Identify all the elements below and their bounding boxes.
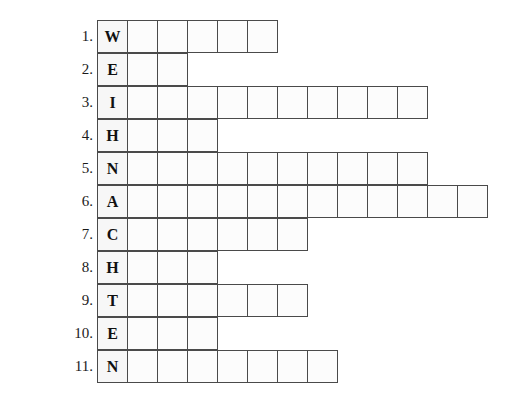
puzzle-answer-cell[interactable] <box>278 153 308 185</box>
puzzle-answer-cell[interactable] <box>308 186 338 218</box>
puzzle-answer-cell[interactable] <box>278 351 308 383</box>
puzzle-answer-cell[interactable] <box>368 87 398 119</box>
puzzle-answer-cell[interactable] <box>308 351 338 383</box>
row-number-label: 8. <box>60 251 97 284</box>
puzzle-answer-cell[interactable] <box>368 153 398 185</box>
puzzle-answer-cell[interactable] <box>248 285 278 317</box>
puzzle-answer-cell[interactable] <box>128 153 158 185</box>
puzzle-row: 7.C <box>60 218 488 251</box>
puzzle-answer-cell[interactable] <box>188 21 218 53</box>
puzzle-answer-cell[interactable] <box>158 120 188 152</box>
puzzle-answer-cell[interactable] <box>158 351 188 383</box>
puzzle-answer-cell[interactable] <box>278 285 308 317</box>
puzzle-answer-cell[interactable] <box>188 87 218 119</box>
puzzle-answer-cell[interactable] <box>188 285 218 317</box>
puzzle-answer-cell[interactable] <box>128 186 158 218</box>
puzzle-answer-cell[interactable] <box>338 186 368 218</box>
puzzle-answer-cell[interactable] <box>218 153 248 185</box>
puzzle-answer-cell[interactable] <box>158 153 188 185</box>
puzzle-answer-cell[interactable] <box>158 54 188 86</box>
puzzle-answer-cell[interactable] <box>158 87 188 119</box>
puzzle-cell-strip: E <box>97 317 218 350</box>
puzzle-answer-cell[interactable] <box>428 186 458 218</box>
puzzle-answer-cell[interactable] <box>188 351 218 383</box>
row-number-label: 4. <box>60 119 97 152</box>
row-number-label: 11. <box>60 350 97 383</box>
puzzle-answer-cell[interactable] <box>338 87 368 119</box>
puzzle-answer-cell[interactable] <box>188 153 218 185</box>
puzzle-answer-cell[interactable] <box>248 21 278 53</box>
puzzle-answer-cell[interactable] <box>218 87 248 119</box>
puzzle-answer-cell[interactable] <box>218 285 248 317</box>
puzzle-answer-cell[interactable] <box>368 186 398 218</box>
puzzle-answer-cell[interactable] <box>188 219 218 251</box>
puzzle-answer-cell[interactable] <box>128 21 158 53</box>
puzzle-row: 4.H <box>60 119 488 152</box>
puzzle-answer-cell[interactable] <box>158 186 188 218</box>
puzzle-letter-cell: E <box>98 54 128 86</box>
puzzle-letter-cell: E <box>98 318 128 350</box>
puzzle-row: 3.I <box>60 86 488 119</box>
puzzle-root: 1.W2.E3.I4.H5.N6.A7.C8.H9.T10.E11.N <box>0 0 521 396</box>
puzzle-answer-cell[interactable] <box>158 219 188 251</box>
puzzle-answer-cell[interactable] <box>308 87 338 119</box>
puzzle-letter-cell: H <box>98 120 128 152</box>
puzzle-answer-cell[interactable] <box>218 351 248 383</box>
puzzle-cell-strip: W <box>97 20 278 53</box>
puzzle-answer-cell[interactable] <box>128 219 158 251</box>
puzzle-answer-cell[interactable] <box>188 120 218 152</box>
row-number-label: 3. <box>60 86 97 119</box>
puzzle-letter-cell: H <box>98 252 128 284</box>
puzzle-answer-cell[interactable] <box>188 186 218 218</box>
row-number-label: 5. <box>60 152 97 185</box>
puzzle-answer-cell[interactable] <box>278 87 308 119</box>
puzzle-letter-cell: W <box>98 21 128 53</box>
puzzle-answer-cell[interactable] <box>128 285 158 317</box>
puzzle-answer-cell[interactable] <box>158 252 188 284</box>
puzzle-answer-cell[interactable] <box>248 219 278 251</box>
puzzle-answer-cell[interactable] <box>278 219 308 251</box>
puzzle-row: 11.N <box>60 350 488 383</box>
puzzle-answer-cell[interactable] <box>158 285 188 317</box>
puzzle-answer-cell[interactable] <box>308 153 338 185</box>
puzzle-letter-cell: T <box>98 285 128 317</box>
puzzle-answer-cell[interactable] <box>188 252 218 284</box>
row-number-label: 6. <box>60 185 97 218</box>
puzzle-answer-cell[interactable] <box>128 54 158 86</box>
puzzle-answer-cell[interactable] <box>248 186 278 218</box>
puzzle-answer-cell[interactable] <box>248 87 278 119</box>
puzzle-cell-strip: E <box>97 53 188 86</box>
puzzle-answer-cell[interactable] <box>398 153 428 185</box>
puzzle-answer-cell[interactable] <box>458 186 488 218</box>
puzzle-letter-cell: C <box>98 219 128 251</box>
puzzle-answer-cell[interactable] <box>338 153 368 185</box>
puzzle-answer-cell[interactable] <box>188 318 218 350</box>
puzzle-row: 1.W <box>60 20 488 53</box>
puzzle-answer-cell[interactable] <box>128 318 158 350</box>
puzzle-answer-cell[interactable] <box>128 87 158 119</box>
puzzle-letter-cell: N <box>98 153 128 185</box>
puzzle-answer-cell[interactable] <box>278 186 308 218</box>
puzzle-cell-strip: N <box>97 152 428 185</box>
puzzle-letter-cell: I <box>98 87 128 119</box>
puzzle-letter-cell: N <box>98 351 128 383</box>
row-number-label: 10. <box>60 317 97 350</box>
puzzle-cell-strip: N <box>97 350 338 383</box>
puzzle-answer-cell[interactable] <box>248 153 278 185</box>
puzzle-answer-cell[interactable] <box>128 120 158 152</box>
puzzle-row: 10.E <box>60 317 488 350</box>
puzzle-answer-cell[interactable] <box>218 21 248 53</box>
puzzle-answer-cell[interactable] <box>158 318 188 350</box>
puzzle-answer-cell[interactable] <box>218 219 248 251</box>
puzzle-answer-cell[interactable] <box>248 351 278 383</box>
puzzle-answer-cell[interactable] <box>398 186 428 218</box>
puzzle-answer-cell[interactable] <box>158 21 188 53</box>
puzzle-answer-cell[interactable] <box>398 87 428 119</box>
puzzle-cell-strip: H <box>97 119 218 152</box>
puzzle-answer-cell[interactable] <box>218 186 248 218</box>
puzzle-letter-cell: A <box>98 186 128 218</box>
puzzle-answer-cell[interactable] <box>128 351 158 383</box>
puzzle-cell-strip: T <box>97 284 308 317</box>
puzzle-answer-cell[interactable] <box>128 252 158 284</box>
row-number-label: 1. <box>60 20 97 53</box>
